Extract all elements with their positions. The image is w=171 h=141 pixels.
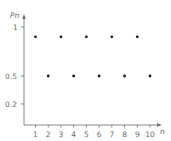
data-point [72, 75, 75, 78]
scatter-chart: Pn n 1 0.5 0.2 12345678910 [0, 0, 171, 141]
data-point [34, 35, 37, 38]
x-tick-label: 8 [122, 130, 127, 139]
x-axis-label: n [160, 127, 165, 136]
x-tick-label: 7 [109, 130, 114, 139]
x-tick-label: 9 [135, 130, 140, 139]
x-tick-label: 1 [33, 130, 38, 139]
y-tick-label: 0.5 [5, 72, 17, 81]
x-tick-label: 6 [97, 130, 102, 139]
data-point [123, 75, 126, 78]
data-point [136, 35, 139, 38]
x-tick-label: 4 [71, 130, 76, 139]
data-point [85, 35, 88, 38]
data-point [60, 35, 63, 38]
data-point [149, 75, 152, 78]
data-point [47, 75, 50, 78]
x-tick-label: 5 [84, 130, 89, 139]
data-point [98, 75, 101, 78]
x-tick-label: 10 [145, 130, 155, 139]
y-axis-arrow-icon [22, 14, 25, 19]
y-axis-label: Pn [10, 11, 20, 20]
y-tick-label: 0.2 [5, 100, 17, 109]
x-ticks: 12345678910 [33, 125, 155, 139]
x-tick-label: 2 [46, 130, 51, 139]
data-point [110, 35, 113, 38]
x-tick-label: 3 [59, 130, 64, 139]
y-tick-label: 1 [13, 23, 18, 32]
y-ticks: 1 0.5 0.2 [5, 23, 24, 109]
data-points [34, 35, 151, 77]
